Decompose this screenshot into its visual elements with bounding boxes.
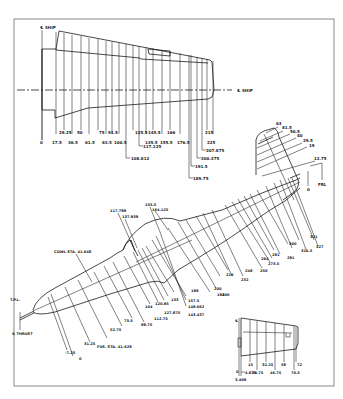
fus-sta-133: 133 (171, 298, 179, 302)
wing-sta-29-25: 29.25 (59, 130, 72, 135)
fus-sta-148-062: 148.062 (188, 305, 205, 309)
fus-sta-256: 256 (260, 269, 268, 273)
stab-sta-3-469: 3.469 (235, 378, 247, 382)
wing-sta-176-5: 176.5 (177, 140, 190, 145)
wing-sta-207-875: 207.875 (206, 148, 224, 153)
cowl-station-label: COWL STA. 41.648 (54, 250, 92, 254)
wing-sta-100-5: 100.5 (114, 140, 127, 145)
stab-sta-15: 15 (248, 363, 254, 367)
fus-sta-311-5: 311.5 (301, 249, 313, 253)
tail-sta-0: 0 (307, 187, 310, 192)
tpl-label: T.P.L. (10, 298, 20, 302)
wing-sta-125-5: 125.5 (135, 130, 148, 135)
fus-sta-112-75: 112.75 (154, 317, 168, 321)
fus-sta-127-875: 127.875 (164, 311, 181, 315)
stab-sta-59: 59 (281, 363, 287, 367)
wing-sta-166: 166 (167, 130, 176, 135)
fus-sta-281: 281 (272, 253, 280, 257)
fus-sta-minus-7-25: -7.25 (65, 351, 76, 355)
fus-sta-232: 232 (241, 278, 249, 282)
wing-sta-75: 75 (99, 130, 105, 135)
fus-sta-73-5: 73.5 (124, 319, 133, 323)
horizontal-stabilizer: ℄ 15 32.25 59 72 0 24.75 46.75 70.5 4.87… (235, 318, 303, 382)
wing-sta-91-5: 91.5 (108, 130, 118, 135)
fus-sta-300: 300 (289, 242, 297, 246)
fus-sta-200: 200 (214, 287, 222, 291)
tail-sta-40: 40 (297, 133, 303, 138)
thrust-line-label: ℄ THRUST (12, 332, 33, 336)
tail-sta-63: 63 (276, 121, 282, 126)
fus-sta-327: 327 (316, 245, 324, 249)
wing-sta-145-5: 145.5 (148, 130, 161, 135)
wing-sta-36-5: 36.5 (68, 140, 78, 145)
fus-sta-216: 216 (226, 273, 234, 277)
fus-sta-291: 291 (287, 256, 295, 260)
fuselage-side-view: 117.799 137.939 155.5 164.125 COWL STA. … (10, 178, 324, 361)
fus-station-label: FUS. STA. 41.629 (97, 345, 132, 349)
stab-sta-70-5: 70.5 (291, 371, 300, 375)
tail-sta-12-75: 12.75 (314, 156, 327, 161)
fus-sta-157-5: 157.5 (188, 299, 200, 303)
fus-sta-89-75: 89.75 (141, 323, 153, 327)
fus-sta-273-5: 273.5 (268, 262, 280, 266)
wing-sta-117-125: 117.125 (143, 144, 161, 149)
fus-label-164-125: 164.125 (152, 208, 169, 212)
stab-sta-46-75: 46.75 (270, 371, 282, 375)
wing-centerline-label-top: ℄ SHIP (40, 25, 56, 30)
fus-sta-321: 321 (310, 235, 318, 239)
figure-frame (14, 19, 334, 386)
wing-sta-17-5: 17.5 (52, 140, 62, 145)
wing-sta-83-5: 83.5 (102, 140, 112, 145)
tail-frl-label: FRL (318, 182, 327, 187)
stab-sta-4-875: 4.875 (245, 371, 257, 375)
wing-sta-215: 215 (205, 130, 214, 135)
wing-sta-189-75: 189.75 (193, 176, 209, 181)
fus-sta-31-25: 31.25 (84, 342, 96, 346)
tail-sta-19: 19 (309, 143, 315, 148)
wing-planform: ℄ SHIP ℄ SHIP (17, 25, 253, 181)
stab-sta-32-25: 32.25 (262, 363, 274, 367)
fus-sta-104: 104 (145, 305, 153, 309)
stab-centerline-label: ℄ (235, 319, 238, 323)
fus-sta-188: 188 (191, 289, 199, 293)
wing-sta-50: 50 (77, 130, 83, 135)
fus-sta-206: 206 (222, 293, 230, 297)
wing-sta-0: 0 (40, 140, 43, 145)
diagram-canvas: ℄ SHIP ℄ SHIP (0, 0, 343, 399)
fus-sta-248: 248 (245, 269, 253, 273)
wing-sta-225: 225 (207, 140, 216, 145)
fus-sta-264: 264 (261, 257, 269, 261)
fus-sta-52-75: 52.75 (110, 328, 122, 332)
wing-sta-200-375: 200.375 (201, 156, 219, 161)
fus-sta-120-85: 120.85 (155, 302, 169, 306)
wing-sta-191-5: 191.5 (195, 164, 208, 169)
fus-label-117-799: 117.799 (110, 209, 127, 213)
wing-sta-155-5: 155.5 (160, 140, 173, 145)
wing-sta-108-812: 108.812 (131, 156, 149, 161)
wing-centerline-label-right: ℄ SHIP (237, 88, 253, 93)
wing-sta-61-5: 61.5 (85, 140, 95, 145)
stab-sta-72: 72 (297, 363, 303, 367)
stab-sta-0: 0 (236, 370, 239, 374)
fus-sta-143-437: 143.437 (188, 313, 205, 317)
fus-label-155-5: 155.5 (145, 203, 157, 207)
fus-sta-0: 0 (79, 357, 82, 361)
fus-label-137-939: 137.939 (122, 215, 139, 219)
